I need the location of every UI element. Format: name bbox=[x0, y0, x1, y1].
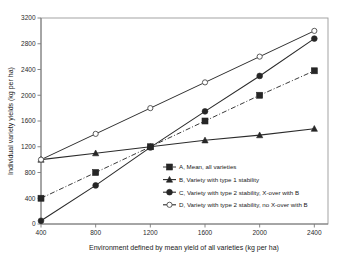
data-point-d bbox=[202, 80, 207, 85]
line-chart: 0400800120016002000240028003200400800120… bbox=[0, 0, 346, 264]
data-point-c bbox=[147, 144, 153, 150]
data-point-d bbox=[257, 54, 262, 59]
y-tick-label: 3200 bbox=[21, 14, 36, 21]
data-point-c bbox=[311, 36, 317, 42]
y-tick-label: 1200 bbox=[21, 143, 36, 150]
legend-label-a: A, Mean, all varieties bbox=[179, 163, 236, 170]
data-point-b bbox=[311, 126, 317, 132]
x-tick-label: 2000 bbox=[252, 229, 267, 236]
chart-figure: 0400800120016002000240028003200400800120… bbox=[0, 0, 346, 264]
series-line-a bbox=[41, 71, 314, 198]
data-point-c bbox=[257, 73, 263, 79]
legend-marker-d bbox=[167, 202, 172, 207]
y-axis-title: Individual variety yields (kg per ha) bbox=[7, 67, 15, 175]
data-point-a bbox=[257, 92, 263, 98]
legend-label-b: B, Variety with type 1 stability bbox=[179, 176, 260, 183]
y-tick-label: 2400 bbox=[21, 66, 36, 73]
legend-marker-a bbox=[167, 164, 173, 170]
y-tick-label: 400 bbox=[25, 195, 36, 202]
data-point-c bbox=[93, 182, 99, 188]
y-tick-label: 1600 bbox=[21, 117, 36, 124]
data-point-d bbox=[38, 157, 43, 162]
x-tick-label: 1200 bbox=[143, 229, 158, 236]
data-point-c bbox=[38, 218, 44, 224]
y-tick-label: 2000 bbox=[21, 92, 36, 99]
data-point-a bbox=[38, 195, 44, 201]
data-point-d bbox=[93, 131, 98, 136]
x-tick-label: 2400 bbox=[307, 229, 322, 236]
x-tick-label: 400 bbox=[36, 229, 47, 236]
y-tick-label: 800 bbox=[25, 169, 36, 176]
legend-label-c: C, Variety with type 2 stability, X-over… bbox=[179, 189, 299, 196]
legend-marker-c bbox=[167, 189, 173, 195]
data-point-c bbox=[202, 108, 208, 114]
data-point-a bbox=[93, 170, 99, 176]
data-point-d bbox=[148, 106, 153, 111]
series-line-d bbox=[41, 31, 314, 160]
legend-label-d: D, Variety with type 2 stability, no X-o… bbox=[179, 201, 308, 208]
x-tick-label: 1600 bbox=[198, 229, 213, 236]
x-axis-title: Environment defined by mean yield of all… bbox=[89, 244, 279, 252]
y-tick-label: 2800 bbox=[21, 40, 36, 47]
x-tick-label: 800 bbox=[90, 229, 101, 236]
data-point-a bbox=[311, 68, 317, 74]
y-tick-label: 0 bbox=[32, 220, 36, 227]
data-point-d bbox=[312, 28, 317, 33]
data-point-a bbox=[202, 118, 208, 124]
